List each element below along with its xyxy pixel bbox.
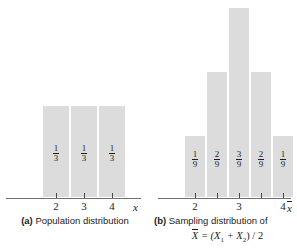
x-axis-label-b: x — [287, 201, 292, 214]
plot-area-a: 1 3 1 3 1 3 — [0, 0, 150, 199]
bar-label-a-2: 1 3 — [99, 144, 125, 163]
formula-eq: = (X — [198, 230, 220, 241]
bar-b-2: 3 9 — [229, 8, 249, 197]
plot-area-b: 1 9 2 9 3 9 — [150, 0, 297, 199]
bar-label-b-2: 3 9 — [229, 150, 249, 169]
fraction-denominator: 9 — [280, 159, 287, 169]
bar-label-b-3: 2 9 — [251, 150, 271, 169]
caption-b-text: Sampling distribution of — [169, 215, 268, 226]
caption-b: (b) Sampling distribution of X = (X1 + X… — [154, 215, 295, 246]
fraction-denominator: 9 — [236, 159, 243, 169]
x-tick-b-2 — [283, 193, 284, 198]
fraction-numerator: 2 — [258, 150, 265, 159]
fraction-numerator: 1 — [81, 144, 88, 153]
fraction-denominator: 9 — [214, 159, 221, 169]
x-tick-label-b-1: 3 — [227, 200, 251, 212]
x-bar-symbol: x — [287, 201, 292, 213]
x-axis-line-a — [6, 198, 141, 199]
caption-b-label: (b) — [154, 215, 166, 226]
bar-label-a-0: 1 3 — [43, 144, 69, 163]
bar-a-2: 1 3 — [99, 106, 125, 197]
bar-label-a-1: 1 3 — [71, 144, 97, 163]
x-tick-b-minor-0 — [217, 193, 218, 198]
fraction-denominator: 3 — [81, 153, 88, 163]
x-tick-b-0 — [195, 193, 196, 198]
bar-label-b-4: 1 9 — [273, 150, 293, 169]
bar-a-1: 1 3 — [71, 106, 97, 197]
x-tick-b-1 — [239, 193, 240, 198]
caption-a-text: Population distribution — [35, 215, 128, 226]
x-axis-line-b — [158, 198, 291, 199]
bar-a-0: 1 3 — [43, 106, 69, 197]
formula-tail: ) / 2 — [246, 230, 263, 241]
fraction-numerator: 1 — [280, 150, 287, 159]
x-axis-label-a: x — [133, 201, 138, 213]
x-tick-b-minor-1 — [261, 193, 262, 198]
caption-b-formula: X = (X1 + X2) / 2 — [154, 229, 295, 246]
bar-b-4: 1 9 — [273, 136, 293, 197]
caption-a-label: (a) — [21, 215, 33, 226]
x-tick-label-a-1: 3 — [72, 200, 96, 212]
x-tick-label-a-2: 4 — [100, 200, 124, 212]
fraction-numerator: 1 — [109, 144, 116, 153]
x-tick-a-2 — [112, 193, 113, 198]
fraction-numerator: 3 — [236, 150, 243, 159]
bar-label-b-1: 2 9 — [207, 150, 227, 169]
bar-b-0: 1 9 — [185, 136, 205, 197]
bar-b-3: 2 9 — [251, 72, 271, 197]
formula-plus: + X — [224, 230, 243, 241]
x-tick-label-a-0: 2 — [44, 200, 68, 212]
x-tick-a-1 — [84, 193, 85, 198]
fraction-denominator: 3 — [53, 153, 60, 163]
fraction-denominator: 9 — [192, 159, 199, 169]
fraction-denominator: 9 — [258, 159, 265, 169]
x-tick-a-0 — [56, 193, 57, 198]
panel-population-distribution: 1 3 1 3 1 3 2 3 4 — [0, 0, 150, 252]
panel-sampling-distribution: 1 9 2 9 3 9 — [150, 0, 297, 252]
caption-a: (a) Population distribution — [0, 215, 150, 227]
x-tick-label-b-0: 2 — [183, 200, 207, 212]
bar-b-1: 2 9 — [207, 72, 227, 197]
fraction-numerator: 2 — [214, 150, 221, 159]
fraction-numerator: 1 — [53, 144, 60, 153]
bar-label-b-0: 1 9 — [185, 150, 205, 169]
fraction-denominator: 3 — [109, 153, 116, 163]
fraction-numerator: 1 — [192, 150, 199, 159]
